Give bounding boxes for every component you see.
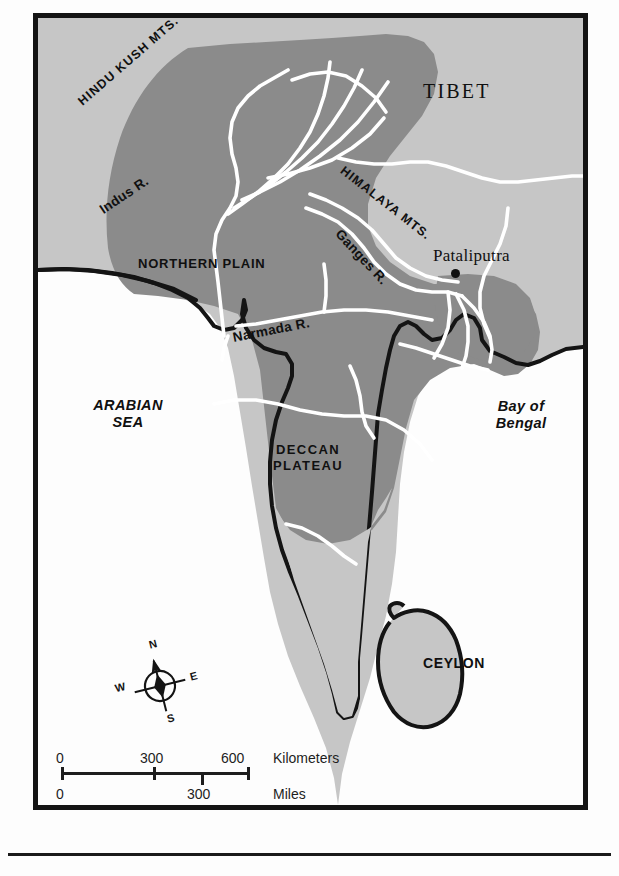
- scale-tick-right: [247, 767, 250, 780]
- scale-km-tick-600: 600: [221, 750, 244, 766]
- scale-bar: 0 300 600 Kilometers 0 300 Miles: [55, 748, 385, 810]
- narmada-tributary: [324, 264, 326, 312]
- scale-miles-unit-label: Miles: [273, 786, 306, 802]
- compass-graphic: [112, 636, 204, 728]
- scale-km-tick-0: 0: [56, 750, 64, 766]
- scale-km-unit-label: Kilometers: [273, 750, 339, 766]
- city-dot-pataliputra: [451, 269, 460, 278]
- scale-km-tick-300: 300: [140, 750, 163, 766]
- scale-miles-tick-0: 0: [56, 786, 64, 802]
- compass-center-diamond: [151, 673, 168, 699]
- scale-miles-tick-300: 300: [187, 786, 210, 802]
- scale-tick-mid-km: [153, 767, 156, 780]
- compass-rose: N E S W: [112, 636, 204, 728]
- map-page: TIBET HINDU KUSH MTS. HIMALAYA MTS. Indu…: [0, 0, 619, 876]
- scale-tick-left: [61, 767, 64, 780]
- scale-tick-mid-miles: [201, 772, 204, 785]
- page-bottom-rule: [8, 853, 611, 856]
